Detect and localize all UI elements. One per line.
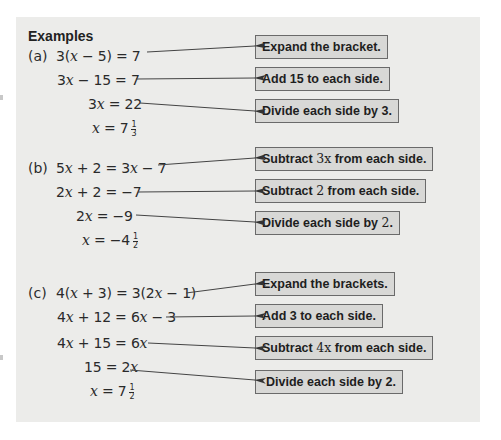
equation-a-1: 3(x − 5) = 7 xyxy=(56,48,140,64)
example-label-c: (c) xyxy=(28,285,47,301)
fraction: 12 xyxy=(133,233,138,250)
equation-a-3: 3x = 22 xyxy=(88,96,142,112)
equation-c-3: 4x + 15 = 6x xyxy=(57,335,147,351)
equation-a-4: x = 713 xyxy=(92,120,136,138)
equation-c-1: 4(x + 3) = 3(2x − 1) xyxy=(56,285,196,301)
step-note-b-3: Divide each side by 2. xyxy=(255,211,400,235)
section-heading: Examples xyxy=(28,28,93,44)
step-note-b-1: Subtract 3x from each side. xyxy=(255,147,433,171)
example-label-b: (b) xyxy=(28,160,48,176)
step-note-c-3: Subtract 4x from each side. xyxy=(255,336,433,360)
step-note-c-2: Add 3 to each side. xyxy=(255,304,383,328)
equation-b-4: x = −412 xyxy=(82,232,138,250)
step-note-a-2: Add 15 to each side. xyxy=(255,67,390,91)
equation-b-3: 2x = −9 xyxy=(76,208,133,224)
page-edge-mark xyxy=(0,355,3,360)
equation-a-2: 3x − 15 = 7 xyxy=(57,72,140,88)
page-edge-mark xyxy=(0,95,3,100)
step-note-a-3: Divide each side by 3. xyxy=(255,99,399,123)
step-note-c-1: Expand the brackets. xyxy=(255,272,395,296)
equation-c-4: 15 = 2x xyxy=(84,359,138,375)
step-note-a-1: Expand the bracket. xyxy=(255,35,388,59)
equation-c-2: 4x + 12 = 6x − 3 xyxy=(57,309,176,325)
step-note-b-2: Subtract 2 from each side. xyxy=(255,179,426,203)
equation-c-5: x = 712 xyxy=(90,383,134,401)
equation-b-2: 2x + 2 = −7 xyxy=(56,184,141,200)
fraction: 12 xyxy=(129,384,134,401)
step-note-c-4: Divide each side by 2. xyxy=(255,370,403,394)
fraction: 13 xyxy=(131,121,136,138)
example-label-a: (a) xyxy=(28,48,48,64)
equation-b-1: 5x + 2 = 3x − 7 xyxy=(56,160,166,176)
